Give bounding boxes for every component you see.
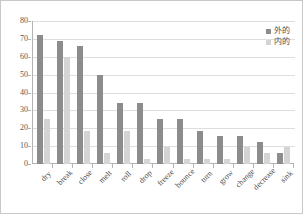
bar (277, 153, 283, 164)
x-axis-tick-label: close (76, 168, 94, 186)
x-axis-tick-label: melt (97, 169, 113, 185)
y-axis-tickmark (28, 128, 31, 129)
x-axis-tick-label: freeze (155, 168, 175, 188)
bar (97, 75, 103, 164)
bar (44, 119, 50, 164)
bar (57, 41, 63, 164)
bar-group (133, 21, 153, 164)
chart-legend: 外的内的 (266, 27, 290, 46)
x-axis-tick-label: drop (137, 169, 154, 186)
x-axis-label-cell: turn (194, 168, 214, 214)
y-axis-tickmark (28, 39, 31, 40)
bar-group (73, 21, 93, 164)
x-axis-tick-label: turn (199, 169, 214, 184)
x-axis-label-cell: melt (93, 168, 113, 214)
legend-item[interactable]: 外的 (266, 27, 290, 35)
x-axis-label-cell: close (73, 168, 93, 214)
x-axis-label-cell: freeze (153, 168, 173, 214)
bar (104, 153, 110, 164)
x-axis-label-cell: roll (113, 168, 133, 214)
legend-label: 外的 (274, 27, 290, 35)
bar-chart: 01020304050607080 drybreakclosemeltrolld… (0, 0, 303, 214)
bar (197, 131, 203, 164)
bar-group (234, 21, 254, 164)
bar (164, 147, 170, 164)
y-axis-tickmark (28, 110, 31, 111)
y-axis-tickmark (28, 75, 31, 76)
x-axis-tick-label: sink (279, 169, 295, 185)
bar-group (53, 21, 73, 164)
bar (257, 142, 263, 164)
legend-swatch-icon (266, 29, 271, 34)
bar (137, 103, 143, 164)
bar-group (194, 21, 214, 164)
bar (244, 147, 250, 164)
x-axis-label-cell: bounce (174, 168, 194, 214)
bar-group (33, 21, 53, 164)
bar-group (153, 21, 173, 164)
bar-series-container (33, 21, 294, 164)
x-axis-tick-label: bounce (173, 167, 196, 190)
bar (37, 35, 43, 164)
y-axis-tickmark (28, 57, 31, 58)
bar (124, 131, 130, 164)
x-axis-label-cell: break (53, 168, 73, 214)
y-axis-tickmarks (1, 21, 32, 164)
bar (117, 103, 123, 164)
bar (157, 119, 163, 164)
bar-group (214, 21, 234, 164)
bar-group (113, 21, 133, 164)
x-axis-labels: drybreakclosemeltrolldropfreezebouncetur… (33, 168, 294, 214)
x-axis-label-cell: change (234, 168, 254, 214)
bar (217, 136, 223, 164)
y-axis-tickmark (28, 164, 31, 165)
x-axis-tick-label: dry (39, 169, 53, 183)
x-axis-label-cell: sink (274, 168, 294, 214)
x-axis-label-cell: grow (214, 168, 234, 214)
x-axis-tick-label: roll (119, 169, 133, 183)
bar (237, 136, 243, 164)
legend-label: 内的 (274, 38, 290, 46)
bar (264, 153, 270, 164)
bar (284, 147, 290, 164)
x-axis-tick-label: break (55, 168, 74, 187)
legend-swatch-icon (266, 40, 271, 45)
y-axis-tickmark (28, 21, 31, 22)
x-axis-label-cell: decrease (254, 168, 274, 214)
bar-group (174, 21, 194, 164)
x-axis-label-cell: drop (133, 168, 153, 214)
legend-item[interactable]: 内的 (266, 38, 290, 46)
x-axis-tick-label: grow (217, 168, 235, 186)
bar-group (93, 21, 113, 164)
y-axis-tickmark (28, 93, 31, 94)
bar (177, 119, 183, 164)
bar (77, 46, 83, 164)
bar (64, 57, 70, 164)
y-axis-tickmark (28, 146, 31, 147)
x-axis-label-cell: dry (33, 168, 53, 214)
bar (84, 131, 90, 164)
